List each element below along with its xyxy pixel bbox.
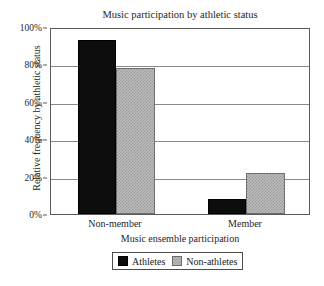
legend-swatch-non-athletes [172,256,182,266]
legend-label: Athletes [132,256,165,267]
y-tick-label: 20% [25,173,42,183]
y-axis-ticks: 0%20%40%60%80%100% [0,28,47,215]
y-tick-label: 80% [25,60,42,70]
bar-athletes-non-member [78,40,117,214]
bar-non-athletes-non-member [116,68,155,214]
legend-label: Non-athletes [186,256,237,267]
y-tick-label: 0% [29,210,42,220]
plot-area [50,28,310,215]
x-tick-label: Non-member [88,218,141,230]
y-tick-label: 100% [20,23,42,33]
legend-entry-non-athletes: Non-athletes [172,256,237,267]
x-axis-ticks: Non-memberMember [50,218,310,232]
chart-legend: AthletesNon-athletes [112,252,243,270]
y-tick-mark [43,177,47,178]
chart-title: Music participation by athletic status [50,8,310,21]
y-tick-mark [43,102,47,103]
y-tick-mark [43,215,47,216]
y-tick-mark [43,28,47,29]
y-tick-label: 60% [25,98,42,108]
y-tick-mark [43,140,47,141]
x-tick-label: Member [228,218,262,230]
bar-athletes-member [208,199,247,214]
y-tick-label: 40% [25,135,42,145]
x-axis-label: Music ensemble participation [50,233,310,245]
bar-non-athletes-member [246,173,285,214]
legend-swatch-athletes [118,256,128,266]
y-tick-mark [43,65,47,66]
legend-entry-athletes: Athletes [118,256,165,267]
